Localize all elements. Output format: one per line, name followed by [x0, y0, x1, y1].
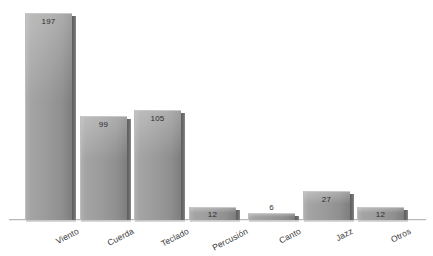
bar-side-shadow — [181, 113, 185, 220]
bar-group: 197 — [25, 13, 76, 220]
bar-base-shadow — [304, 220, 354, 222]
bar-group: 12 — [357, 207, 408, 220]
bar-value-label: 6 — [248, 203, 295, 212]
bar-side-shadow — [236, 210, 240, 220]
bar[interactable] — [248, 213, 295, 220]
bar-group: 99 — [80, 116, 131, 220]
bar-base-shadow — [135, 220, 185, 222]
bar-group: 12 — [189, 207, 240, 220]
bar-value-label: 12 — [189, 210, 236, 219]
bar-base-shadow — [249, 220, 299, 222]
bar-group: 27 — [303, 191, 354, 220]
bar-chart: 197991051262712 VientoCuerdaTecladoPercu… — [0, 0, 433, 256]
bar-base-shadow — [81, 220, 131, 222]
bar-value-label: 12 — [357, 210, 404, 219]
bar-side-shadow — [350, 194, 354, 220]
bar-value-label: 99 — [80, 120, 127, 129]
bar-group: 105 — [134, 110, 185, 220]
bar-side-shadow — [72, 16, 76, 220]
bar-base-shadow — [358, 220, 408, 222]
bar-base-shadow — [190, 220, 240, 222]
bar-side-shadow — [404, 210, 408, 220]
bar-value-label: 105 — [134, 114, 181, 123]
bar-value-label: 197 — [25, 17, 72, 26]
plot-area: 197991051262712 — [0, 0, 433, 256]
bar[interactable] — [25, 13, 72, 220]
bar[interactable] — [80, 116, 127, 220]
bar-base-shadow — [26, 220, 76, 222]
bar-side-shadow — [127, 119, 131, 220]
bar[interactable] — [134, 110, 181, 220]
bar-group: 6 — [248, 213, 299, 220]
bar-value-label: 27 — [303, 195, 350, 204]
